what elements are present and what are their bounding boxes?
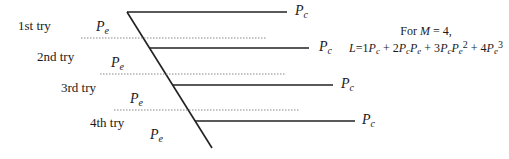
formula-line-2: L=1Pc + 2PcPe + 3PcPe2 + 4Pe3: [348, 38, 504, 58]
pc-label-3: Pc: [341, 76, 354, 93]
try-label-1: 1st try: [18, 18, 51, 34]
pc-label-4: Pc: [362, 112, 375, 129]
pc-label-1: Pc: [295, 3, 308, 20]
diagonal-line: [127, 12, 212, 148]
formula-line-1: For M = 4,: [348, 24, 504, 38]
pe-label-1: Pe: [96, 19, 109, 36]
try-label-3: 3rd try: [61, 80, 96, 96]
pe-label-2: Pe: [111, 55, 124, 72]
formula-block: For M = 4, L=1Pc + 2PcPe + 3PcPe2 + 4Pe3: [348, 24, 504, 58]
pe-label-final: Pe: [150, 127, 163, 144]
try-label-2: 2nd try: [37, 49, 74, 65]
pc-label-2: Pc: [319, 39, 332, 56]
try-label-4: 4th try: [90, 115, 124, 131]
pe-label-3: Pe: [130, 91, 143, 108]
